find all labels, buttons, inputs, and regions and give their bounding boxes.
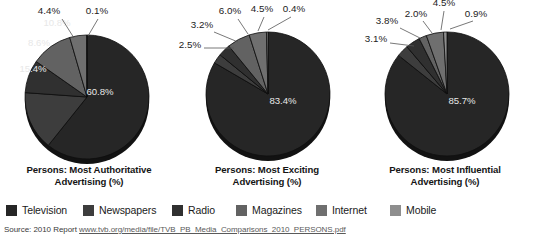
pie-slice-label: 0.1% — [86, 5, 109, 16]
pie-chart-authoritative: 60.8%15.4%8.6%10.8%4.4%0.1% Persons: Mos… — [0, 0, 178, 198]
leader-line — [441, 11, 444, 30]
legend-label: Newspapers — [99, 204, 156, 216]
source-prefix: Source: 2010 Report — [4, 225, 77, 234]
source-citation: Source: 2010 Report www.tvb.org/media/fi… — [4, 225, 346, 234]
chart-title-line1: Persons: Most Influential — [389, 164, 501, 175]
chart-title-exciting: Persons: Most Exciting Advertising (%) — [180, 164, 354, 189]
legend-item-internet: Internet — [316, 204, 367, 216]
pie-slice-label: 4.5% — [433, 0, 456, 8]
legend-item-radio: Radio — [172, 204, 215, 216]
pie-slice-label: 2.5% — [179, 39, 202, 50]
leader-line — [400, 28, 420, 38]
pie-slice-label: 85.7% — [448, 95, 476, 106]
chart-title-authoritative: Persons: Most Authoritative Advertising … — [2, 164, 176, 189]
chart-title-line1: Persons: Most Exciting — [215, 164, 319, 175]
pie-slice-label: 15.4% — [19, 63, 47, 74]
leader-line — [238, 19, 248, 34]
media-comparison-pie-figure: 60.8%15.4%8.6%10.8%4.4%0.1% Persons: Mos… — [0, 0, 534, 241]
chart-title-line2: Advertising (%) — [233, 176, 302, 187]
pie-chart-exciting: 83.4%2.5%3.2%6.0%4.5%0.4% Persons: Most … — [178, 0, 356, 198]
pie-svg-influential: 85.7%3.1%3.8%2.0%4.5%0.9% — [356, 0, 534, 165]
pie-charts-row: 60.8%15.4%8.6%10.8%4.4%0.1% Persons: Mos… — [0, 0, 534, 198]
legend-item-magazines: Magazines — [236, 204, 302, 216]
pie-slice-label: 2.0% — [405, 8, 428, 19]
leader-line — [258, 17, 264, 31]
pie-slice-label: 4.4% — [38, 5, 61, 16]
legend-item-television: Television — [6, 204, 67, 216]
legend-label: Magazines — [252, 204, 302, 216]
chart-title-line2: Advertising (%) — [411, 176, 480, 187]
pie-slice-label: 3.1% — [365, 33, 388, 44]
pie-chart-influential: 85.7%3.1%3.8%2.0%4.5%0.9% Persons: Most … — [356, 0, 534, 198]
leader-line — [450, 21, 473, 29]
legend-swatch-icon — [390, 205, 401, 216]
pie-slice-label: 3.2% — [191, 19, 214, 30]
legend-swatch-icon — [83, 205, 94, 216]
leader-line — [88, 19, 98, 36]
pie-slice-label: 8.6% — [28, 37, 50, 48]
pie-slice-label: 6.0% — [219, 5, 242, 16]
legend-swatch-icon — [172, 205, 183, 216]
legend-label: Radio — [188, 204, 215, 216]
pie-svg-authoritative: 60.8%15.4%8.6%10.8%4.4%0.1% — [0, 0, 178, 165]
pie-slice-label: 4.5% — [251, 3, 274, 14]
pie-slice-label: 60.8% — [86, 86, 114, 97]
pie-slice-label: 83.4% — [269, 95, 297, 106]
legend-swatch-icon — [6, 205, 17, 216]
leader-line — [214, 32, 238, 42]
source-url-link[interactable]: www.tvb.org/media/file/TVB_PB_Media_Comp… — [79, 225, 346, 234]
leader-line — [268, 17, 291, 30]
legend-label: Television — [22, 204, 67, 216]
pie-slice-label: 0.4% — [283, 3, 306, 14]
legend-swatch-icon — [316, 205, 327, 216]
legend-label: Internet — [332, 204, 367, 216]
chart-legend: TelevisionNewspapersRadioMagazinesIntern… — [0, 199, 534, 221]
pie-svg-exciting: 83.4%2.5%3.2%6.0%4.5%0.4% — [178, 0, 356, 165]
pie-slice-label: 0.9% — [465, 8, 488, 19]
legend-item-mobile: Mobile — [390, 204, 436, 216]
chart-title-line1: Persons: Most Authoritative — [27, 164, 152, 175]
legend-swatch-icon — [236, 205, 247, 216]
chart-title-line2: Advertising (%) — [55, 176, 124, 187]
legend-item-newspapers: Newspapers — [83, 204, 156, 216]
leader-line — [423, 21, 432, 33]
legend-label: Mobile — [406, 204, 436, 216]
chart-title-influential: Persons: Most Influential Advertising (%… — [358, 164, 532, 189]
pie-slice-label: 3.8% — [376, 15, 399, 26]
